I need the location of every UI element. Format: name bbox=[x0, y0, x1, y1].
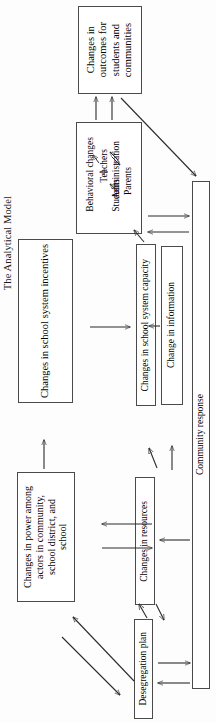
node-changes-in-power: Changes in power among actors in communi… bbox=[17, 472, 75, 602]
node-community-label: Community response bbox=[195, 394, 206, 475]
node-school-system-incentives: Changes in school system incentives bbox=[18, 239, 73, 403]
node-outcomes-label: Changes in outcomes for students and com… bbox=[85, 22, 135, 77]
node-outcomes: Changes in outcomes for students and com… bbox=[78, 6, 142, 94]
node-changes-in-resources: Changes in resources bbox=[135, 477, 155, 605]
node-power-label: Changes in power among actors in communi… bbox=[22, 486, 69, 588]
arrow-resources-to-capacity bbox=[149, 448, 157, 468]
diagram-canvas: The Analytical Model Changes in outcomes… bbox=[0, 0, 216, 723]
node-desegregation-label: Desegregation plan bbox=[138, 632, 149, 706]
arrow-power-to-desegregation bbox=[62, 637, 120, 695]
node-behavioral-changes: Behavioral changes Teachers Administrati… bbox=[76, 122, 142, 234]
node-desegregation-plan: Desegregation plan bbox=[134, 619, 153, 719]
node-community-response: Community response bbox=[192, 181, 210, 689]
node-information-label: Change in information bbox=[166, 282, 177, 368]
behavioral-actor-teachers: Teachers bbox=[99, 149, 110, 183]
node-incentives-label: Changes in school system incentives bbox=[39, 244, 51, 398]
node-resources-label: Changes in resources bbox=[139, 501, 150, 582]
arrow-desegregation-to-resources bbox=[139, 604, 147, 618]
node-school-system-capacity: Changes in school system capacity bbox=[136, 244, 156, 406]
node-capacity-label: Changes in school system capacity bbox=[140, 259, 151, 391]
behavioral-actor-students: Students bbox=[111, 179, 122, 212]
arrow-resources-to-desegregation bbox=[156, 604, 164, 620]
behavioral-actor-parents: Parents bbox=[123, 167, 134, 195]
behavioral-actor-cluster: Behavioral changes Teachers Administrati… bbox=[77, 123, 141, 233]
figure-title: The Analytical Model bbox=[2, 196, 14, 290]
node-change-in-information: Change in information bbox=[161, 246, 183, 405]
behavioral-heading: Behavioral changes bbox=[85, 137, 96, 212]
arrow-desegregation-to-power bbox=[73, 617, 134, 681]
